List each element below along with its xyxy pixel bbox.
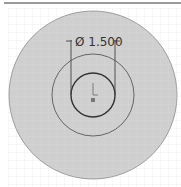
origin-point-icon[interactable]	[91, 98, 95, 102]
sketch-canvas[interactable]: Ø 1.500	[0, 0, 181, 187]
diameter-dimension-label[interactable]: Ø 1.500	[75, 35, 123, 49]
